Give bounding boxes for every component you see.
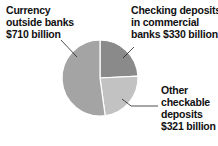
- label-currency-outside-banks: Currency outside banks $710 billion: [6, 4, 74, 40]
- pie-slice-other-checkable-deposits: [100, 76, 138, 115]
- label-currency-line1: Currency: [6, 4, 74, 16]
- pie-slice-currency-outside-banks: [62, 40, 105, 116]
- label-checking-line1: Checking deposits: [131, 4, 218, 16]
- label-checking-deposits: Checking deposits in commercial banks $3…: [131, 4, 218, 40]
- label-other-line2: checkable: [161, 96, 216, 108]
- label-checking-value: banks $330 billion: [131, 28, 218, 40]
- label-checking-line2: in commercial: [131, 16, 218, 28]
- label-other-checkable-deposits: Other checkable deposits $321 billion: [161, 84, 216, 132]
- pie-chart: Currency outside banks $710 billion Chec…: [0, 0, 218, 146]
- pie-slice-checking-deposits-in-commercial-banks: [100, 40, 138, 78]
- label-other-value: $321 billion: [161, 120, 216, 132]
- pie-slices: [62, 40, 138, 116]
- label-currency-value: $710 billion: [6, 28, 74, 40]
- label-currency-line2: outside banks: [6, 16, 74, 28]
- leader-line-currency: [61, 40, 77, 57]
- label-other-line3: deposits: [161, 108, 216, 120]
- label-other-line1: Other: [161, 84, 216, 96]
